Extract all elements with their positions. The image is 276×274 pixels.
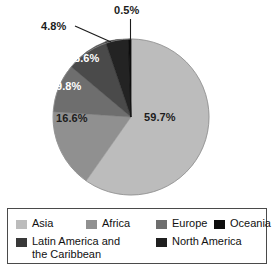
legend-swatch-oceania — [214, 220, 225, 229]
legend-item-africa[interactable]: Africa — [86, 217, 130, 230]
legend-label-africa: Africa — [102, 217, 130, 230]
pie-label-oceania: 0.5% — [114, 5, 139, 16]
legend-swatch-europe — [156, 220, 167, 229]
legend-label-north-america: North America — [172, 235, 242, 248]
pie-chart: 59.7% 16.6% 9.8% 8.6% 4.8% 0.5% Asia Afr… — [0, 0, 276, 274]
pie-plot-area: 59.7% 16.6% 9.8% 8.6% 4.8% 0.5% — [0, 0, 276, 205]
legend-item-latin-america[interactable]: Latin America and the Caribbean — [16, 235, 120, 260]
legend-label-europe: Europe — [172, 217, 207, 230]
legend-swatch-asia — [16, 220, 27, 229]
legend-item-europe[interactable]: Europe — [156, 217, 207, 230]
legend-item-north-america[interactable]: North America — [156, 235, 242, 248]
legend-swatch-north-america — [156, 238, 167, 247]
legend-swatch-latin-america — [16, 238, 27, 247]
legend-item-asia[interactable]: Asia — [16, 217, 53, 230]
pie-label-north-america: 4.8% — [41, 21, 66, 32]
legend-swatch-africa — [86, 220, 97, 229]
legend-label-oceania: Oceania — [230, 217, 271, 230]
pie-label-asia: 59.7% — [144, 112, 176, 123]
legend-label-asia: Asia — [32, 217, 53, 230]
pie-label-africa: 16.6% — [56, 113, 88, 124]
pie-label-europe: 9.8% — [56, 81, 81, 92]
leader-line-north-america — [75, 26, 111, 42]
pie-label-latin-america: 8.6% — [74, 53, 99, 64]
chart-legend: Asia Africa Europe Oceania Latin America… — [7, 208, 267, 264]
legend-item-oceania[interactable]: Oceania — [214, 217, 271, 230]
legend-label-latin-america: Latin America and the Caribbean — [32, 235, 120, 260]
